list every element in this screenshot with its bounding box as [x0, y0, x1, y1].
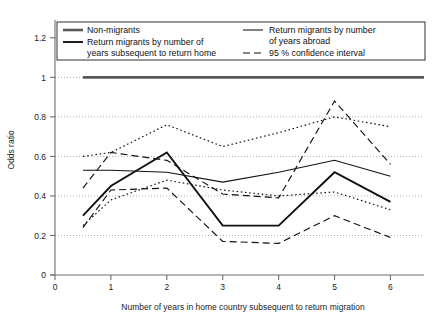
x-tick-label-3: 3 — [220, 282, 225, 292]
legend-label-2-line2: of years abroad — [269, 36, 330, 46]
x-tick-label-6: 6 — [388, 282, 393, 292]
legend-label-1-line2: years subsequent to return home — [87, 48, 216, 58]
y-tick-label-0: 0 — [41, 270, 46, 280]
x-axis-title: Number of years in home country subseque… — [121, 302, 365, 312]
chart-legend: Non-migrantsReturn migrants by number of… — [57, 22, 425, 60]
x-tick-label-0: 0 — [53, 282, 58, 292]
x-tick-label-2: 2 — [164, 282, 169, 292]
y-axis-title: Odds ratio — [6, 130, 16, 169]
y-tick-label-0.4: 0.4 — [34, 191, 46, 201]
legend-label-0: Non-migrants — [87, 25, 140, 35]
y-tick-label-1.2: 1.2 — [34, 33, 46, 43]
legend-label-1: Return migrants by number of — [87, 37, 204, 47]
y-tick-label-0.8: 0.8 — [34, 112, 46, 122]
y-tick-label-1: 1 — [41, 73, 46, 83]
chart-canvas: 00.20.40.60.811.2 0123456 Odds ratio Num… — [0, 0, 433, 328]
x-tick-label-4: 4 — [276, 282, 281, 292]
legend-label-2: Return migrants by number — [269, 25, 376, 35]
legend-label-3: 95 % confidence interval — [269, 48, 365, 58]
y-tick-label-0.2: 0.2 — [34, 231, 46, 241]
y-tick-label-0.6: 0.6 — [34, 152, 46, 162]
x-tick-label-1: 1 — [109, 282, 114, 292]
x-tick-label-5: 5 — [332, 282, 337, 292]
odds-ratio-line-chart: 00.20.40.60.811.2 0123456 Odds ratio Num… — [0, 0, 433, 328]
